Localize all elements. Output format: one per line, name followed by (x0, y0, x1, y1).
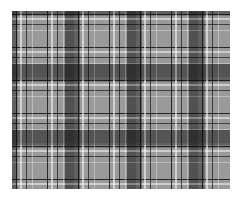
dark-vertical-band (65, 11, 80, 189)
dark-horizontal-band (12, 11, 230, 15)
plaid-pattern-image (12, 11, 230, 189)
dark-horizontal-band (12, 130, 230, 145)
dark-vertical-band (12, 11, 17, 189)
dark-vertical-band (189, 11, 205, 189)
dark-vertical-band (127, 11, 142, 189)
dark-horizontal-band (12, 64, 230, 80)
